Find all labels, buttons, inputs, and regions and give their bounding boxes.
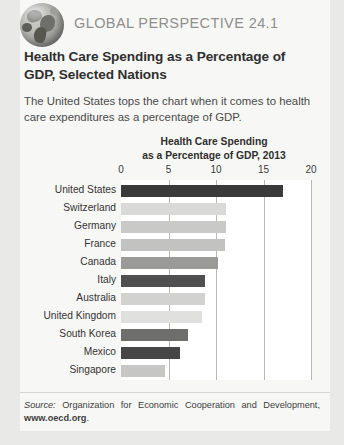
category-label-australia: Australia (20, 292, 116, 303)
footer-divider (20, 392, 330, 393)
chart-bar-row (121, 344, 311, 362)
category-label-south-korea: South Korea (20, 328, 116, 339)
globe-highlight (26, 7, 44, 19)
bar-germany (121, 221, 226, 233)
bar-singapore (121, 365, 165, 377)
globe-landmass (33, 26, 48, 44)
bar-united-states (121, 185, 283, 197)
source-text: Organization for Economic Cooperation an… (62, 400, 320, 410)
chart-bar-row (121, 326, 311, 344)
globe-landmass (50, 7, 60, 15)
chart-title-line2: as a Percentage of GDP, 2013 (142, 150, 285, 161)
category-label-canada: Canada (20, 256, 116, 267)
chart-bar-row (121, 308, 311, 326)
bar-south-korea (121, 329, 188, 341)
category-label-germany: Germany (20, 220, 116, 231)
header-band: GLOBAL PERSPECTIVE 24.1 (20, 0, 330, 44)
x-tick-15: 15 (258, 164, 269, 175)
x-tick-20: 20 (305, 164, 316, 175)
chart-bar-row (121, 200, 311, 218)
category-label-united-states: United States (20, 184, 116, 195)
category-label-switzerland: Switzerland (20, 202, 116, 213)
x-tick-10: 10 (210, 164, 221, 175)
globe-icon (20, 3, 64, 47)
chart-title-line1: Health Care Spending (161, 136, 268, 147)
category-axis-labels: United StatesSwitzerlandGermanyFranceCan… (19, 180, 116, 380)
chart-bar-row (121, 362, 311, 380)
globe-landmass (22, 23, 32, 32)
source-note: Source: Organization for Economic Cooper… (24, 399, 320, 426)
chart-bar-row (121, 236, 311, 254)
bar-australia (121, 293, 205, 305)
page-subtitle: The United States tops the chart when it… (24, 93, 312, 125)
category-label-united-kingdom: United Kingdom (20, 310, 116, 321)
chart-bar-row (121, 290, 311, 308)
bar-switzerland (121, 203, 226, 215)
category-label-france: France (20, 238, 116, 249)
chart-title: Health Care Spending as a Percentage of … (108, 135, 320, 162)
kicker-label: GLOBAL PERSPECTIVE 24.1 (74, 15, 279, 31)
page-title: Health Care Spending as a Percentage of … (24, 48, 316, 84)
page-container: GLOBAL PERSPECTIVE 24.1 Health Care Spen… (0, 0, 344, 445)
chart-bar-row (121, 254, 311, 272)
x-axis-tick-labels: 05101520 (0, 164, 344, 178)
chart-bar-row (121, 182, 311, 200)
chart-bar-row (121, 272, 311, 290)
x-tick-0: 0 (118, 164, 124, 175)
bar-italy (121, 275, 205, 287)
chart-bar-row (121, 218, 311, 236)
x-tick-5: 5 (166, 164, 172, 175)
source-period: . (86, 413, 89, 423)
bar-france (121, 239, 225, 251)
bar-canada (121, 257, 218, 269)
category-label-italy: Italy (20, 274, 116, 285)
source-url[interactable]: www.oecd.org (24, 413, 86, 423)
bar-united-kingdom (121, 311, 202, 323)
gridline (311, 180, 312, 380)
category-label-mexico: Mexico (20, 346, 116, 357)
source-label: Source: (24, 400, 56, 410)
category-label-singapore: Singapore (20, 364, 116, 375)
chart-plot-area (121, 180, 311, 380)
bar-mexico (121, 347, 180, 359)
